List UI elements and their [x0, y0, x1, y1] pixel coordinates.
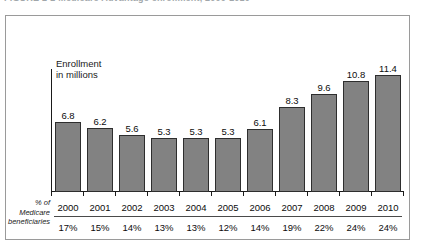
x-axis-tick [243, 192, 244, 196]
bar-value-label: 10.8 [340, 69, 372, 80]
year-label: 2001 [84, 202, 116, 213]
bar-value-label: 9.6 [308, 82, 340, 93]
bar-2000: 6.8 [52, 69, 84, 192]
x-axis-tick [403, 192, 404, 196]
x-axis-tick [179, 192, 180, 196]
bar-value-label: 6.1 [244, 117, 276, 128]
bar-value-label: 6.2 [84, 116, 116, 127]
bar-2007: 8.3 [276, 69, 308, 192]
secondary-row-label: % ofMedicarebeneficiaries [8, 198, 50, 227]
year-label: 2007 [276, 202, 308, 213]
year-label: 2002 [116, 202, 148, 213]
bar-rect [87, 128, 113, 192]
bar-value-label: 8.3 [276, 95, 308, 106]
x-axis-tick [83, 192, 84, 196]
secondary-row-label-line-1: % of [8, 198, 50, 208]
bar-value-label: 6.8 [52, 110, 84, 121]
percent-value: 17% [52, 222, 84, 233]
year-label: 2004 [180, 202, 212, 213]
bar-rect [55, 122, 81, 192]
bar-value-label: 11.4 [372, 63, 404, 74]
figure-caption: FIGURE 2-2 Medicare Advantage enrollment… [4, 0, 250, 3]
percent-value: 15% [84, 222, 116, 233]
y-axis-label-line1: Enrollment [56, 58, 101, 69]
percent-value: 14% [244, 222, 276, 233]
year-label: 2009 [340, 202, 372, 213]
bar-rect [247, 129, 273, 192]
x-axis-tick [371, 192, 372, 196]
year-label: 2010 [372, 202, 404, 213]
bar-rect [311, 94, 337, 192]
percent-value: 22% [308, 222, 340, 233]
x-axis-tick [339, 192, 340, 196]
year-label: 2006 [244, 202, 276, 213]
x-axis-tick [211, 192, 212, 196]
bar-rect [183, 138, 209, 192]
figure-caption-strip: FIGURE 2-2 Medicare Advantage enrollment… [0, 0, 425, 13]
bar-2004: 5.3 [180, 69, 212, 192]
bar-value-label: 5.3 [148, 126, 180, 137]
x-axis-tick [147, 192, 148, 196]
bar-value-label: 5.6 [116, 123, 148, 134]
year-label: 2008 [308, 202, 340, 213]
x-axis-tick [307, 192, 308, 196]
bar-rect [375, 75, 401, 192]
x-axis-tick [115, 192, 116, 196]
year-label: 2000 [52, 202, 84, 213]
bar-rect [343, 81, 369, 192]
year-label: 2005 [212, 202, 244, 213]
percent-value: 19% [276, 222, 308, 233]
percent-value: 13% [148, 222, 180, 233]
bar-2002: 5.6 [116, 69, 148, 192]
bar-2010: 11.4 [372, 69, 404, 192]
percent-value: 14% [116, 222, 148, 233]
bar-rect [279, 107, 305, 192]
bar-rect [119, 135, 145, 192]
figure-frame: Enrollment in millions 6.86.25.65.35.35.… [5, 15, 410, 240]
percent-value: 24% [372, 222, 404, 233]
bar-value-label: 5.3 [212, 126, 244, 137]
secondary-row-label-line-3: beneficiaries [8, 217, 50, 227]
percent-value: 24% [340, 222, 372, 233]
bar-2006: 6.1 [244, 69, 276, 192]
bar-rect [215, 138, 241, 192]
bar-value-label: 5.3 [180, 126, 212, 137]
percent-value: 12% [212, 222, 244, 233]
percent-value: 13% [180, 222, 212, 233]
bar-2003: 5.3 [148, 69, 180, 192]
bar-rect [151, 138, 177, 192]
x-axis-tick [275, 192, 276, 196]
bar-2008: 9.6 [308, 69, 340, 192]
bar-2009: 10.8 [340, 69, 372, 192]
secondary-row-label-line-2: Medicare [8, 208, 50, 218]
data-table-region: % ofMedicarebeneficiaries 20002001200220… [6, 197, 411, 241]
bar-2005: 5.3 [212, 69, 244, 192]
table-divider [54, 216, 402, 217]
x-axis-tick [51, 192, 52, 196]
bar-2001: 6.2 [84, 69, 116, 192]
year-label: 2003 [148, 202, 180, 213]
